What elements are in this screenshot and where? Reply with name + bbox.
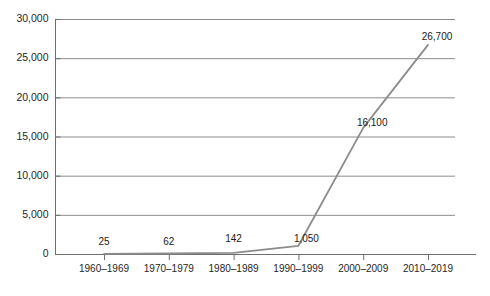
y-axis-tick-label: 0 bbox=[43, 247, 49, 259]
y-axis-tick-label: 5,000 bbox=[22, 208, 48, 220]
y-axis-tick-label: 15,000 bbox=[16, 130, 48, 142]
chart-container: 05,00010,00015,00020,00025,00030,000 196… bbox=[0, 0, 490, 296]
y-axis-tick-label: 30,000 bbox=[16, 12, 48, 24]
line-chart: 05,00010,00015,00020,00025,00030,000 196… bbox=[0, 0, 490, 296]
x-axis-tick-label: 2000–2009 bbox=[338, 263, 388, 274]
x-axis-tick-label: 1960–1969 bbox=[79, 263, 129, 274]
y-axis-tick-label: 20,000 bbox=[16, 91, 48, 103]
x-axis-tick-label: 1970–1979 bbox=[144, 263, 194, 274]
x-axis-tick-label: 1990–1999 bbox=[273, 263, 323, 274]
data-point-label: 142 bbox=[225, 233, 242, 244]
x-axis-tick-label: 1980–1989 bbox=[209, 263, 259, 274]
y-axis-tick-label: 10,000 bbox=[16, 169, 48, 181]
data-point-label: 25 bbox=[98, 236, 110, 247]
data-point-label: 62 bbox=[163, 236, 175, 247]
data-point-label: 26,700 bbox=[422, 31, 453, 42]
data-point-label: 16,100 bbox=[357, 117, 388, 128]
x-axis-tick-label: 2010–2019 bbox=[403, 263, 453, 274]
y-axis-tick-label: 25,000 bbox=[16, 51, 48, 63]
data-point-label: 1,050 bbox=[294, 233, 319, 244]
